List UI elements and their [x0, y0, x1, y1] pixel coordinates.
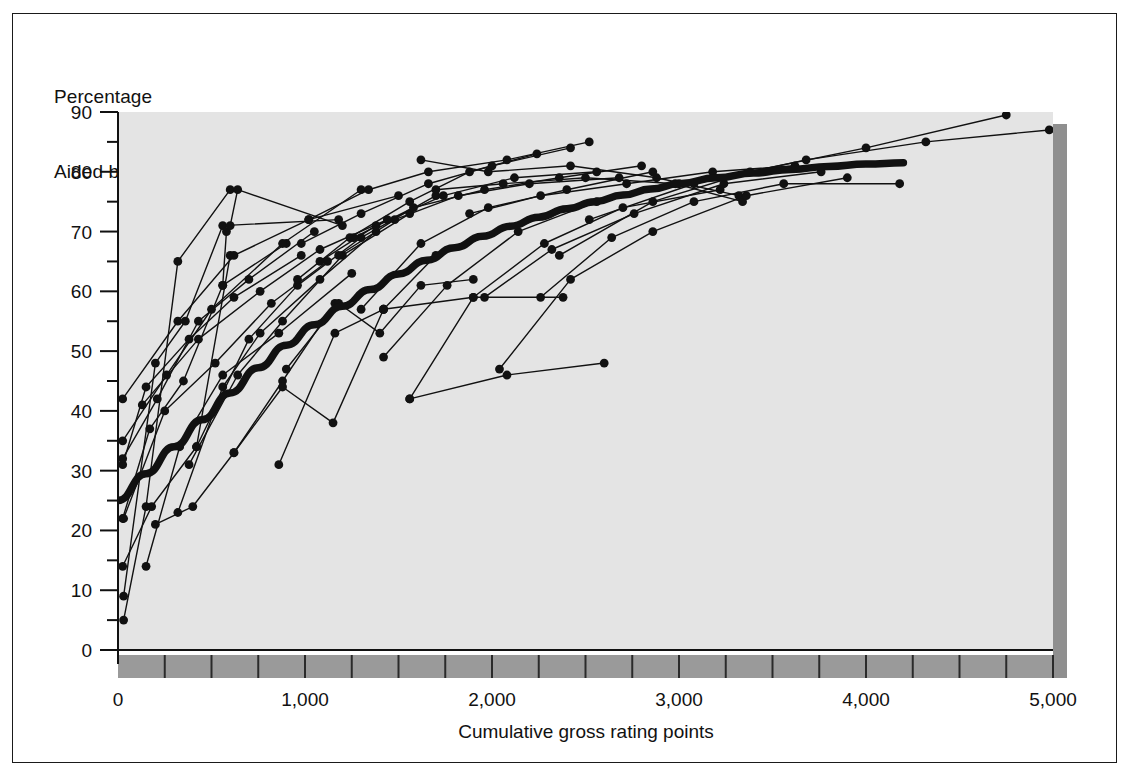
data-point-marker — [118, 436, 127, 445]
x-axis-tick-label: 4,000 — [842, 689, 890, 710]
data-point-marker — [316, 245, 325, 254]
y-axis-tick-label: 60 — [71, 281, 92, 302]
data-point-marker — [652, 173, 661, 182]
x-axis-tick-label: 2,000 — [468, 689, 516, 710]
data-point-marker — [173, 508, 182, 517]
data-point-marker — [323, 257, 332, 266]
data-point-marker — [480, 185, 489, 194]
data-point-marker — [607, 233, 616, 242]
data-point-marker — [334, 251, 343, 260]
data-point-marker — [138, 401, 147, 410]
data-point-marker — [211, 359, 220, 368]
data-point-marker — [484, 167, 493, 176]
data-point-marker — [160, 406, 169, 415]
data-point-marker — [417, 155, 426, 164]
data-point-marker — [499, 179, 508, 188]
data-point-marker — [536, 191, 545, 200]
x-axis-tick-label: 3,000 — [655, 689, 703, 710]
data-point-marker — [151, 520, 160, 529]
data-point-marker — [233, 371, 242, 380]
data-point-marker — [119, 616, 128, 625]
data-point-marker — [230, 448, 239, 457]
data-point-marker — [179, 377, 188, 386]
data-point-marker — [424, 179, 433, 188]
data-point-marker — [188, 502, 197, 511]
data-point-marker — [153, 395, 162, 404]
data-point-marker — [207, 305, 216, 314]
data-point-marker — [375, 329, 384, 338]
data-point-marker — [118, 454, 127, 463]
x-axis-tick-label: 5,000 — [1029, 689, 1077, 710]
data-point-marker — [566, 275, 575, 284]
data-point-marker — [297, 239, 306, 248]
data-point-marker — [173, 317, 182, 326]
data-point-marker — [443, 281, 452, 290]
data-point-marker — [218, 281, 227, 290]
data-point-marker — [118, 562, 127, 571]
data-point-marker — [357, 305, 366, 314]
data-point-marker — [194, 335, 203, 344]
y-axis-tick-label: 40 — [71, 401, 92, 422]
y-axis-tick-label: 50 — [71, 341, 92, 362]
data-point-marker — [690, 197, 699, 206]
data-point-marker — [469, 275, 478, 284]
data-point-marker — [119, 514, 128, 523]
data-point-marker — [585, 137, 594, 146]
data-point-marker — [274, 460, 283, 469]
data-point-marker — [357, 209, 366, 218]
data-point-marker — [581, 173, 590, 182]
data-point-marker — [297, 251, 306, 260]
data-point-marker — [147, 502, 156, 511]
data-point-marker — [218, 371, 227, 380]
plot-drop-shadow — [1053, 124, 1067, 678]
y-axis-tick-label: 10 — [71, 580, 92, 601]
data-point-marker — [293, 275, 302, 284]
data-point-marker — [547, 245, 556, 254]
y-axis-tick-label: 20 — [71, 520, 92, 541]
x-axis-tick-label: 0 — [113, 689, 124, 710]
chart-canvas: 010203040506070809001,0002,0003,0004,000… — [0, 0, 1132, 779]
data-point-marker — [648, 227, 657, 236]
data-point-marker — [1002, 111, 1011, 120]
data-point-marker — [329, 418, 338, 427]
data-point-marker — [432, 185, 441, 194]
data-point-marker — [310, 227, 319, 236]
data-point-marker — [895, 179, 904, 188]
data-point-marker — [379, 305, 388, 314]
data-point-marker — [278, 239, 287, 248]
data-point-marker — [173, 257, 182, 266]
data-point-marker — [142, 562, 151, 571]
data-point-marker — [181, 317, 190, 326]
data-point-marker — [304, 215, 313, 224]
plot-area-background — [118, 112, 1053, 650]
data-point-marker — [119, 592, 128, 601]
data-point-marker — [503, 371, 512, 380]
data-point-marker — [469, 293, 478, 302]
x-axis-title: Cumulative gross rating points — [458, 721, 714, 742]
data-point-marker — [230, 251, 239, 260]
data-point-marker — [331, 329, 340, 338]
data-point-marker — [417, 281, 426, 290]
y-axis-tick-label: 30 — [71, 461, 92, 482]
data-point-marker — [555, 173, 564, 182]
data-point-marker — [503, 155, 512, 164]
data-point-marker — [637, 161, 646, 170]
data-point-marker — [409, 203, 418, 212]
data-point-marker — [510, 173, 519, 182]
data-point-marker — [566, 161, 575, 170]
data-point-marker — [282, 365, 291, 374]
data-point-marker — [540, 239, 549, 248]
data-point-marker — [278, 317, 287, 326]
data-point-marker — [142, 383, 151, 392]
data-point-marker — [364, 185, 373, 194]
data-point-marker — [600, 359, 609, 368]
x-axis-tick-label: 1,000 — [281, 689, 329, 710]
data-point-marker — [347, 269, 356, 278]
data-point-marker — [383, 215, 392, 224]
data-point-marker — [802, 155, 811, 164]
data-point-marker — [185, 460, 194, 469]
data-point-marker — [118, 395, 127, 404]
data-point-marker — [226, 221, 235, 230]
data-point-marker — [465, 209, 474, 218]
data-point-marker — [622, 179, 631, 188]
